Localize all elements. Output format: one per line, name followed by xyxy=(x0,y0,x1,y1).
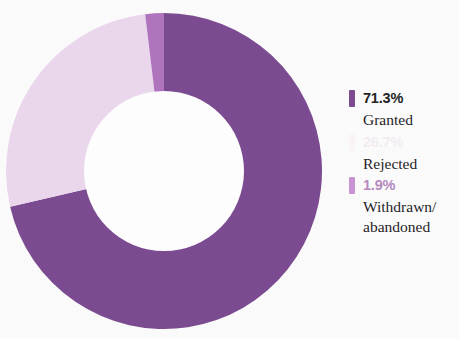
chart-page: 71.3% Granted 26.7% Rejected 1.9% Withdr… xyxy=(0,0,459,338)
legend-item-rejected: 26.7% Rejected xyxy=(349,132,459,174)
legend-percent-granted: 71.3% xyxy=(363,91,403,106)
legend-label-withdrawn: Withdrawn/ abandoned xyxy=(363,197,459,236)
legend-head-granted: 71.3% xyxy=(349,88,459,109)
donut-chart-svg xyxy=(4,11,324,331)
legend-swatch-rejected xyxy=(349,134,355,151)
legend-item-withdrawn: 1.9% Withdrawn/ abandoned xyxy=(349,175,459,236)
legend-percent-rejected: 26.7% xyxy=(363,135,403,150)
legend-head-withdrawn: 1.9% xyxy=(349,175,459,196)
legend-percent-withdrawn: 1.9% xyxy=(363,178,395,193)
donut-center-hole xyxy=(84,91,244,251)
legend-label-rejected: Rejected xyxy=(363,154,459,174)
legend-label-granted: Granted xyxy=(363,110,459,130)
donut-chart xyxy=(4,11,324,331)
legend-swatch-granted xyxy=(349,90,355,107)
legend-item-granted: 71.3% Granted xyxy=(349,88,459,130)
legend-head-rejected: 26.7% xyxy=(349,132,459,153)
chart-legend: 71.3% Granted 26.7% Rejected 1.9% Withdr… xyxy=(349,88,459,238)
legend-swatch-withdrawn xyxy=(349,177,355,194)
